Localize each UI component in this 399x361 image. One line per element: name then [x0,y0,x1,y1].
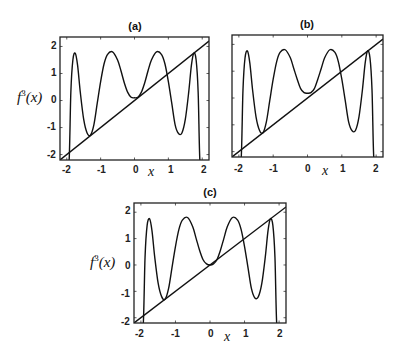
f3-curve [67,52,202,167]
identity-line [232,39,383,157]
axes-c [134,203,286,330]
f3-curve [141,217,279,330]
axes-b [232,35,383,164]
axes-a [60,37,209,167]
f3-curve [239,49,376,163]
identity-line [134,207,286,323]
identity-line [60,41,209,160]
plot-canvas [0,0,399,361]
